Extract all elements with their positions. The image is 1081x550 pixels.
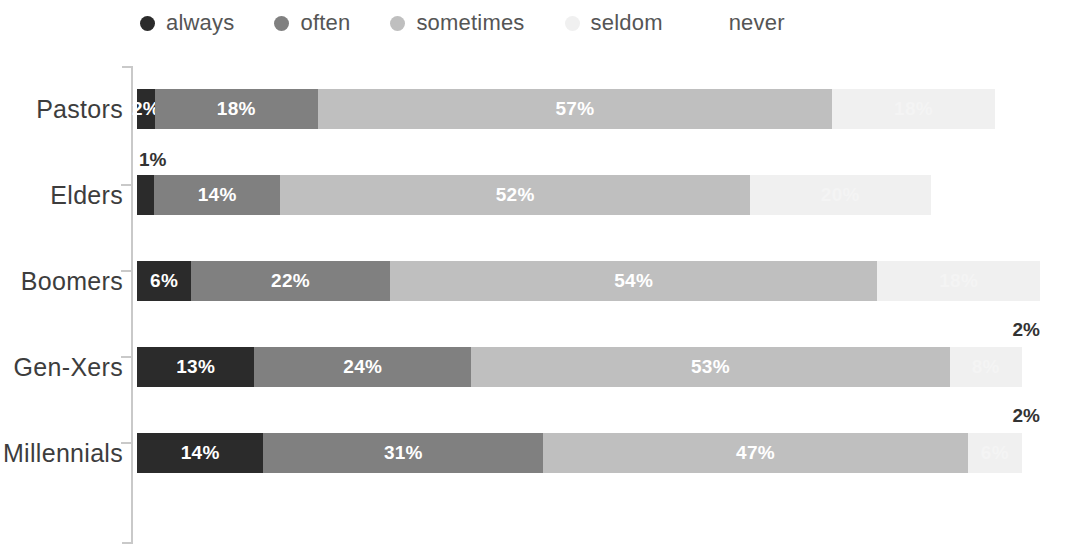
bar-segment-often[interactable]: 31%: [263, 433, 543, 473]
bar-segment-seldom[interactable]: 8%: [950, 347, 1022, 387]
category-label-millennials: Millennials: [8, 410, 123, 496]
category-label-boomers: Boomers: [8, 238, 123, 324]
bar-segment-always[interactable]: 2%: [137, 89, 155, 129]
segment-value-label: 47%: [736, 442, 775, 464]
legend-item-often[interactable]: often: [274, 10, 350, 36]
stacked-bar[interactable]: 13%24%53%8%2%: [137, 347, 1040, 387]
legend-item-seldom[interactable]: seldom: [565, 10, 663, 36]
segment-value-label: 57%: [555, 98, 594, 120]
bar-segment-sometimes[interactable]: 54%: [390, 261, 878, 301]
legend-dot-icon: [140, 16, 155, 31]
legend-dot-icon: [565, 16, 580, 31]
legend-label: often: [300, 10, 350, 36]
axis-cap-bottom: [122, 542, 132, 544]
bar-segment-always[interactable]: 6%: [137, 261, 191, 301]
segment-value-label: 13%: [176, 356, 215, 378]
segment-value-label-external: 1%: [139, 149, 166, 171]
bar-segment-often[interactable]: 14%: [154, 175, 280, 215]
segment-value-label: 14%: [181, 442, 220, 464]
legend-label: sometimes: [416, 10, 524, 36]
segment-value-label: 31%: [384, 442, 423, 464]
legend-item-never[interactable]: never: [703, 10, 785, 36]
chart-row: Gen-Xers13%24%53%8%2%: [0, 324, 1081, 410]
legend-label: always: [166, 10, 234, 36]
category-label-pastors: Pastors: [8, 66, 123, 152]
stacked-bar[interactable]: 2%18%57%18%: [137, 89, 995, 129]
bar-segment-seldom[interactable]: 18%: [877, 261, 1040, 301]
legend-dot-icon: [703, 16, 718, 31]
bar-segment-often[interactable]: 18%: [155, 89, 318, 129]
bar-segment-sometimes[interactable]: 57%: [318, 89, 833, 129]
segment-value-label: 14%: [198, 184, 237, 206]
segment-value-label: 18%: [217, 98, 256, 120]
bar-segment-sometimes[interactable]: 53%: [471, 347, 950, 387]
legend-label: seldom: [591, 10, 663, 36]
legend-dot-icon: [390, 16, 405, 31]
legend-dot-icon: [274, 16, 289, 31]
legend-item-always[interactable]: always: [140, 10, 234, 36]
bar-segment-always[interactable]: 1%: [137, 175, 154, 215]
category-label-gen-xers: Gen-Xers: [8, 324, 123, 410]
bar-segment-sometimes[interactable]: 47%: [543, 433, 967, 473]
category-label-elders: Elders: [8, 152, 123, 238]
chart-row: Elders1%14%52%20%: [0, 152, 1081, 238]
chart-legend: alwaysoftensometimesseldomnever: [140, 6, 825, 40]
segment-value-label: 20%: [821, 184, 860, 206]
segment-value-label: 8%: [972, 356, 1000, 378]
segment-value-label: 54%: [614, 270, 653, 292]
bar-segment-seldom[interactable]: 20%: [750, 175, 931, 215]
bar-segment-always[interactable]: 13%: [137, 347, 254, 387]
segment-value-label: 52%: [496, 184, 535, 206]
stacked-bar-chart: alwaysoftensometimesseldomnever Pastors2…: [0, 0, 1081, 550]
stacked-bar[interactable]: 1%14%52%20%: [137, 175, 923, 215]
segment-value-label-external: 2%: [1012, 319, 1039, 341]
segment-value-label: 22%: [271, 270, 310, 292]
chart-row: Boomers6%22%54%18%: [0, 238, 1081, 324]
stacked-bar[interactable]: 6%22%54%18%: [137, 261, 1040, 301]
segment-value-label: 53%: [691, 356, 730, 378]
segment-value-label: 24%: [343, 356, 382, 378]
chart-row: Pastors2%18%57%18%: [0, 66, 1081, 152]
bar-segment-seldom[interactable]: 18%: [832, 89, 995, 129]
legend-item-sometimes[interactable]: sometimes: [390, 10, 524, 36]
plot-area: Pastors2%18%57%18%Elders1%14%52%20%Boome…: [0, 62, 1081, 550]
bar-segment-often[interactable]: 22%: [191, 261, 390, 301]
segment-value-label: 18%: [939, 270, 978, 292]
stacked-bar[interactable]: 14%31%47%6%2%: [137, 433, 1040, 473]
segment-value-label: 6%: [981, 442, 1009, 464]
bar-segment-never[interactable]: 2%: [1022, 433, 1040, 473]
segment-value-label: 18%: [894, 98, 933, 120]
bar-segment-always[interactable]: 14%: [137, 433, 263, 473]
segment-value-label: 6%: [150, 270, 178, 292]
legend-label: never: [729, 10, 785, 36]
segment-value-label-external: 2%: [1012, 405, 1039, 427]
chart-row: Millennials14%31%47%6%2%: [0, 410, 1081, 496]
bar-segment-seldom[interactable]: 6%: [968, 433, 1022, 473]
bar-segment-often[interactable]: 24%: [254, 347, 471, 387]
bar-segment-never[interactable]: 2%: [1022, 347, 1040, 387]
bar-segment-sometimes[interactable]: 52%: [280, 175, 750, 215]
